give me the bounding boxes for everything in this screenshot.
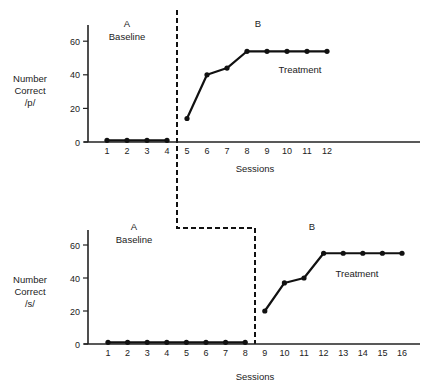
y-axis-label: /p/ — [25, 97, 36, 108]
data-point — [341, 251, 346, 256]
data-point — [105, 340, 110, 345]
data-point — [124, 138, 129, 143]
y-axis-label: Number — [13, 73, 47, 84]
x-tick-label: 5 — [184, 146, 189, 156]
phase-change-line — [177, 10, 255, 344]
y-tick-label: 0 — [75, 138, 80, 148]
x-tick-label: 12 — [322, 146, 332, 156]
chart-svg: 0204060123456789101112SessionsNumberCorr… — [0, 0, 433, 391]
data-point — [144, 138, 149, 143]
x-tick-label: 8 — [243, 348, 248, 358]
x-tick-label: 10 — [279, 348, 289, 358]
data-point — [264, 49, 269, 54]
y-axis-label: Number — [13, 274, 47, 285]
series-line-treatment — [187, 51, 327, 118]
data-point — [224, 65, 229, 70]
x-tick-label: 7 — [223, 348, 228, 358]
x-tick-label: 2 — [125, 348, 130, 358]
y-tick-label: 60 — [70, 37, 80, 47]
data-point — [204, 72, 209, 77]
phase-letter: B — [309, 221, 315, 232]
data-point — [399, 251, 404, 256]
data-point — [104, 138, 109, 143]
x-tick-label: 1 — [104, 146, 109, 156]
x-tick-label: 11 — [299, 348, 308, 358]
x-tick-label: 6 — [203, 348, 208, 358]
data-point — [203, 340, 208, 345]
chart-s: 020406012345678910111213141516SessionsNu… — [13, 221, 420, 382]
x-tick-label: 15 — [377, 348, 387, 358]
y-tick-label: 0 — [75, 340, 80, 350]
x-tick-label: 12 — [319, 348, 329, 358]
phase-label: Baseline — [109, 31, 145, 42]
x-axis-label: Sessions — [236, 163, 275, 174]
data-point — [301, 275, 306, 280]
y-axis-label: Correct — [14, 85, 46, 96]
x-tick-label: 4 — [164, 348, 169, 358]
phase-label: Baseline — [116, 234, 152, 245]
y-tick-label: 40 — [70, 70, 80, 80]
phase-change-dashed-line — [177, 10, 255, 344]
data-point — [321, 251, 326, 256]
x-tick-label: 11 — [302, 146, 311, 156]
x-tick-label: 13 — [338, 348, 348, 358]
x-tick-label: 3 — [145, 348, 150, 358]
data-point — [262, 308, 267, 313]
chart-p: 0204060123456789101112SessionsNumberCorr… — [13, 18, 420, 174]
x-tick-label: 4 — [164, 146, 169, 156]
phase-label: Treatment — [336, 268, 379, 279]
x-tick-label: 5 — [184, 348, 189, 358]
multiple-baseline-figure: 0204060123456789101112SessionsNumberCorr… — [0, 0, 433, 391]
data-point — [223, 340, 228, 345]
data-point — [244, 49, 249, 54]
y-tick-label: 40 — [70, 274, 80, 284]
x-tick-label: 7 — [224, 146, 229, 156]
x-tick-label: 10 — [282, 146, 292, 156]
data-point — [145, 340, 150, 345]
data-point — [380, 251, 385, 256]
data-point — [125, 340, 130, 345]
phase-letter: A — [124, 18, 131, 29]
x-tick-label: 9 — [262, 348, 267, 358]
data-point — [243, 340, 248, 345]
y-tick-label: 20 — [70, 307, 80, 317]
data-point — [184, 116, 189, 121]
data-point — [184, 340, 189, 345]
data-point — [324, 49, 329, 54]
data-point — [304, 49, 309, 54]
y-tick-label: 20 — [70, 104, 80, 114]
data-point — [360, 251, 365, 256]
data-point — [282, 280, 287, 285]
x-tick-label: 1 — [105, 348, 110, 358]
x-tick-label: 3 — [144, 146, 149, 156]
x-tick-label: 2 — [124, 146, 129, 156]
x-axis-label: Sessions — [236, 371, 275, 382]
x-tick-label: 8 — [244, 146, 249, 156]
y-axis-label: Correct — [14, 286, 46, 297]
x-tick-label: 16 — [397, 348, 407, 358]
x-tick-label: 9 — [264, 146, 269, 156]
data-point — [164, 340, 169, 345]
data-point — [284, 49, 289, 54]
y-axis-label: /s/ — [25, 298, 35, 309]
y-tick-label: 60 — [70, 241, 80, 251]
phase-letter: A — [131, 221, 138, 232]
phase-label: Treatment — [279, 64, 322, 75]
x-tick-label: 6 — [204, 146, 209, 156]
phase-letter: B — [255, 18, 261, 29]
x-tick-label: 14 — [358, 348, 368, 358]
data-point — [164, 138, 169, 143]
